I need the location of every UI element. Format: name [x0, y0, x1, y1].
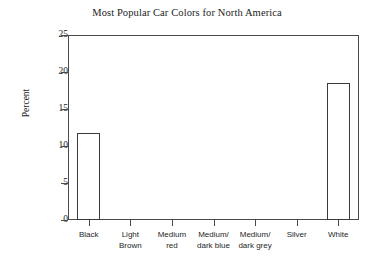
x-tick-mark: [214, 220, 215, 226]
x-tick-mark: [297, 220, 298, 226]
bar-chart: Most Popular Car Colors for North Americ…: [0, 0, 374, 264]
y-tick-mark: [61, 72, 68, 73]
y-tick-mark: [61, 183, 68, 184]
x-tick-mark: [255, 220, 256, 226]
x-tick-label-line: dark grey: [219, 241, 291, 252]
x-tick-label: White: [302, 230, 374, 241]
y-tick-mark: [61, 220, 68, 221]
x-tick-mark: [172, 220, 173, 226]
y-axis-ticks: 0510152025: [30, 0, 68, 264]
bar: [327, 83, 350, 220]
y-tick-mark: [61, 35, 68, 36]
y-tick-mark: [61, 109, 68, 110]
x-tick-label-line: White: [302, 230, 374, 241]
x-tick-mark: [338, 220, 339, 226]
plot-area: [68, 35, 359, 220]
x-tick-mark: [130, 220, 131, 226]
x-tick-mark: [89, 220, 90, 226]
y-tick-mark: [61, 146, 68, 147]
bar: [77, 133, 100, 220]
